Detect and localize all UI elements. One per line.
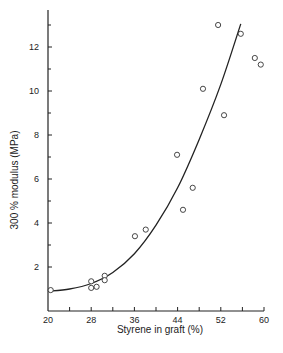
y-tick-label: 4 bbox=[34, 218, 39, 228]
data-point bbox=[143, 227, 148, 232]
y-axis-label: 300 % modulus (MPa) bbox=[9, 131, 20, 230]
data-point bbox=[221, 113, 226, 118]
y-tick-label: 6 bbox=[34, 174, 39, 184]
data-point bbox=[89, 279, 94, 284]
x-tick-label: 20 bbox=[43, 315, 53, 325]
data-point bbox=[200, 86, 205, 91]
data-points bbox=[48, 22, 263, 292]
data-point bbox=[216, 22, 221, 27]
data-point bbox=[174, 152, 179, 157]
data-point bbox=[132, 234, 137, 239]
y-tick-label: 2 bbox=[34, 262, 39, 272]
x-axis-label: Styrene in graft (%) bbox=[117, 324, 203, 335]
data-point bbox=[190, 185, 195, 190]
y-tick-label: 10 bbox=[29, 86, 39, 96]
scatter-chart: 24681012202836445260 Styrene in graft (%… bbox=[0, 0, 283, 353]
data-point bbox=[252, 55, 257, 60]
x-tick-label: 52 bbox=[216, 315, 226, 325]
fit-curve bbox=[48, 24, 241, 291]
fit-line bbox=[48, 24, 241, 291]
data-point bbox=[102, 278, 107, 283]
x-tick-label: 60 bbox=[259, 315, 269, 325]
data-point bbox=[89, 285, 94, 290]
data-point bbox=[94, 284, 99, 289]
x-tick-label: 28 bbox=[86, 315, 96, 325]
data-point bbox=[48, 288, 53, 293]
data-point bbox=[180, 207, 185, 212]
y-tick-label: 12 bbox=[29, 42, 39, 52]
axes: 24681012202836445260 bbox=[29, 10, 269, 325]
data-point bbox=[258, 62, 263, 67]
data-point bbox=[238, 31, 243, 36]
y-tick-label: 8 bbox=[34, 130, 39, 140]
